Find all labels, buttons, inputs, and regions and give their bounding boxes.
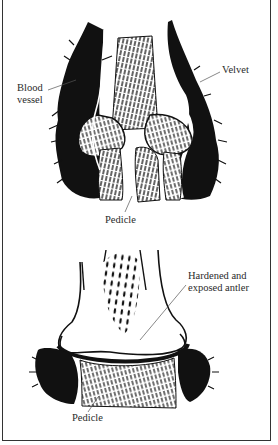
blood-vessel-label: Blood vessel [17,82,43,106]
top-pedicle-label: Pedicle [105,214,136,226]
velvet-label: Velvet [222,64,249,76]
bottom-pedicle-label: Pedicle [72,412,103,424]
hardened-antler-label: Hardened and exposed antler [188,270,249,294]
